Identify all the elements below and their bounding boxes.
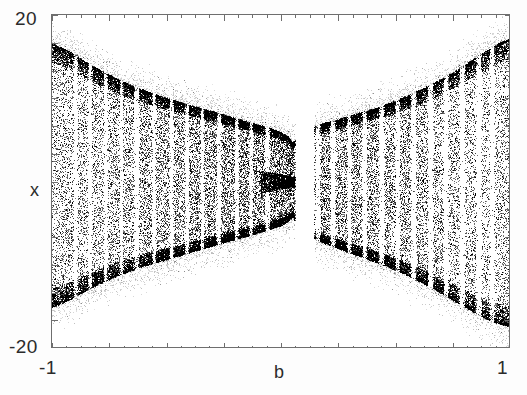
y-axis-min-label: -20 — [9, 336, 38, 358]
plot-area — [51, 14, 510, 348]
axis-ticks — [52, 15, 510, 348]
x-axis-min-label: -1 — [39, 357, 57, 379]
x-axis-max-label: 1 — [497, 357, 508, 379]
y-axis-max-label: 20 — [15, 8, 37, 30]
x-axis-title: b — [274, 362, 284, 383]
y-axis-title: x — [30, 180, 39, 201]
bifurcation-figure: 20 -20 -1 1 x b — [0, 0, 527, 395]
